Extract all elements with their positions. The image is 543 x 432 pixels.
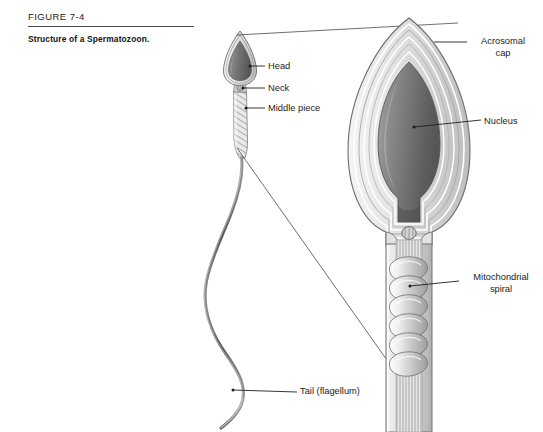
label-neck: Neck bbox=[268, 83, 289, 95]
figure-caption: Structure of a Spermatozoon. bbox=[28, 34, 194, 44]
label-acrosomal-cap-line1: Acrosomal bbox=[470, 36, 536, 48]
label-acrosomal-cap-line2: cap bbox=[470, 48, 536, 60]
label-nucleus: Nucleus bbox=[484, 116, 518, 128]
figure-divider bbox=[28, 26, 194, 27]
label-acrosomal-cap: Acrosomal cap bbox=[470, 36, 536, 59]
label-mitochondrial-spiral-line2: spiral bbox=[462, 284, 540, 296]
label-mitochondrial-spiral-line1: Mitochondrial bbox=[462, 272, 540, 284]
label-head: Head bbox=[268, 61, 290, 73]
small-middle-piece bbox=[234, 92, 248, 158]
small-tail bbox=[204, 158, 243, 428]
label-tail: Tail (flagellum) bbox=[300, 386, 360, 398]
figure-number: FIGURE 7-4 bbox=[28, 11, 194, 22]
small-head bbox=[224, 31, 257, 86]
small-spermatozoon bbox=[204, 31, 256, 428]
figure-header: FIGURE 7-4 Structure of a Spermatozoon. bbox=[28, 11, 194, 44]
mitochondrial-spiral bbox=[389, 257, 427, 377]
label-mitochondrial-spiral: Mitochondrial spiral bbox=[462, 272, 540, 295]
magnified-spermatozoon bbox=[348, 18, 470, 432]
label-middle-piece: Middle piece bbox=[268, 103, 320, 115]
